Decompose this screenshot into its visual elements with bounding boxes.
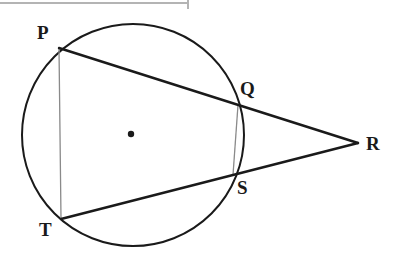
secant-t-to-r	[61, 143, 358, 219]
vertex-label-t: T	[39, 220, 52, 239]
geometry-figure: P Q R S T	[0, 0, 402, 261]
vertex-label-s: S	[237, 178, 248, 197]
secant-p-to-r	[59, 48, 358, 143]
geometry-canvas	[0, 0, 402, 261]
chord-q-to-s	[233, 105, 238, 175]
chord-p-to-t	[59, 48, 61, 219]
page-edge-rule	[0, 0, 188, 9]
vertex-label-r: R	[366, 134, 380, 153]
vertex-label-p: P	[37, 23, 49, 42]
vertex-label-q: Q	[240, 79, 255, 98]
circle-center-dot	[128, 131, 134, 137]
